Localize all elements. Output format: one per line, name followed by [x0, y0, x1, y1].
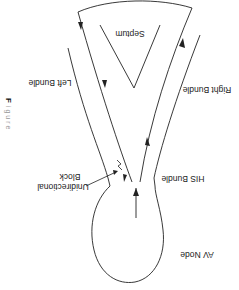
arrow-right-limb-upper-icon [179, 38, 185, 48]
av-node-shape [92, 186, 164, 283]
arrow-left-limb-mid-icon [102, 80, 107, 88]
reentry-circuit-diagram: AV Node HIS Bundle Left Bundle Right Bun… [0, 0, 239, 290]
block-pointer-line [86, 172, 116, 186]
label-his-bundle: HIS Bundle [161, 174, 204, 184]
label-left-bundle: Left Bundle [28, 78, 71, 88]
labels: AV Node HIS Bundle Left Bundle Right Bun… [28, 29, 231, 260]
loop-top-arc [78, 1, 192, 12]
label-block-line2: Block [59, 172, 81, 182]
arrow-up-his-icon [133, 188, 139, 196]
label-av-node: AV Node [180, 250, 214, 260]
label-right-bundle: Right Bundle [182, 85, 231, 95]
right-bundle-outer-edge [154, 35, 200, 186]
arrow-left-limb-lower-icon [123, 174, 127, 182]
figure-caption-fragment: F i g u r e [4, 98, 13, 129]
unidirectional-block-marker [86, 160, 122, 186]
caption-rest: i g u r e [4, 106, 12, 129]
left-bundle-outer-edge [68, 48, 110, 186]
caption-bold-letter: F [4, 98, 13, 103]
conduction-arrows [78, 22, 185, 196]
block-zigzag-icon [117, 160, 122, 170]
arrow-right-limb-lower-icon [145, 137, 150, 146]
label-block-line1: Unidirectional [37, 182, 89, 192]
conduction-outline [68, 25, 200, 283]
label-septum: Septum [115, 29, 144, 39]
